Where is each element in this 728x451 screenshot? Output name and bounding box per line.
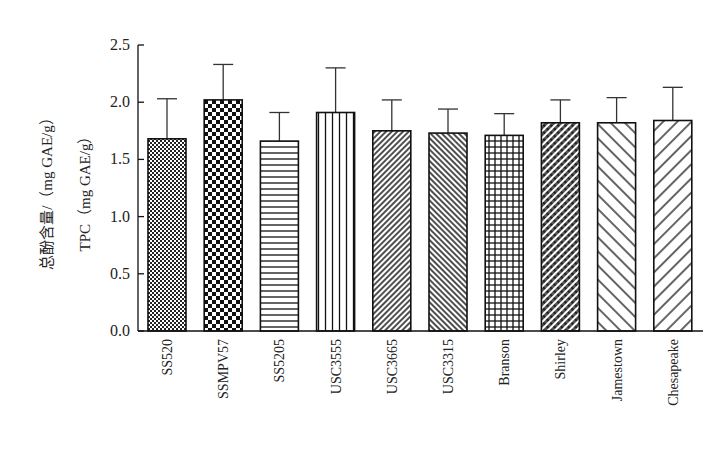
bar-rect bbox=[148, 139, 186, 331]
y-tick-label: 2.0 bbox=[110, 93, 130, 110]
x-category-label: Shirley bbox=[553, 339, 568, 379]
bar-ssmpv57 bbox=[204, 64, 242, 331]
bar-rect bbox=[654, 121, 692, 331]
y-tick-label: 1.0 bbox=[110, 208, 130, 225]
bar-chart: 总酚含量/（mg GAE/g） TPC（mg GAE/g） 0.00.51.01… bbox=[0, 0, 728, 451]
bar-branson bbox=[485, 114, 523, 331]
bar-usc3315 bbox=[429, 109, 467, 331]
bar-rect bbox=[317, 112, 355, 331]
x-category-label: SS520 bbox=[160, 339, 175, 376]
x-category-label: USC3665 bbox=[385, 339, 400, 394]
y-axis-title-line1: 总酚含量/（mg GAE/g） bbox=[39, 110, 55, 270]
bar-ss520 bbox=[148, 99, 186, 331]
bar-rect bbox=[204, 100, 242, 331]
bar-chesapeake bbox=[654, 87, 692, 331]
bar-usc3555 bbox=[317, 68, 355, 331]
y-tick-label: 0.5 bbox=[110, 265, 130, 282]
y-axis-title-line2: TPC（mg GAE/g） bbox=[77, 129, 93, 252]
bar-ss5205 bbox=[260, 112, 298, 331]
bar-shirley bbox=[541, 100, 579, 331]
x-category-label: Jamestown bbox=[610, 339, 625, 401]
y-tick-label: 0.0 bbox=[110, 322, 130, 339]
bar-rect bbox=[598, 123, 636, 331]
bar-usc3665 bbox=[373, 100, 411, 331]
y-tick-label: 2.5 bbox=[110, 36, 130, 53]
bar-rect bbox=[373, 131, 411, 331]
y-tick-label: 1.5 bbox=[110, 150, 130, 167]
x-category-label: Chesapeake bbox=[666, 339, 681, 406]
bars-group bbox=[148, 64, 692, 331]
x-category-label: USC3555 bbox=[329, 339, 344, 394]
x-category-label: SSMPV57 bbox=[216, 339, 231, 399]
bar-rect bbox=[541, 123, 579, 331]
bar-rect bbox=[260, 141, 298, 331]
chart-canvas: 总酚含量/（mg GAE/g） TPC（mg GAE/g） 0.00.51.01… bbox=[0, 0, 728, 451]
x-category-label: Branson bbox=[497, 339, 512, 386]
x-axis: SS520SSMPV57SS5205USC3555USC3665USC3315B… bbox=[138, 331, 703, 406]
x-category-label: SS5205 bbox=[272, 339, 287, 383]
y-axis-title: 总酚含量/（mg GAE/g） TPC（mg GAE/g） bbox=[39, 110, 93, 270]
bar-jamestown bbox=[598, 98, 636, 331]
x-category-label: USC3315 bbox=[441, 339, 456, 394]
bar-rect bbox=[429, 133, 467, 331]
bar-rect bbox=[485, 135, 523, 331]
y-axis: 0.00.51.01.52.02.5 bbox=[110, 36, 144, 339]
